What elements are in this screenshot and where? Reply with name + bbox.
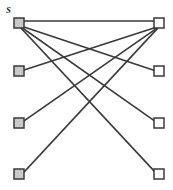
edge-layer [19,21,159,173]
right-node-4 [154,169,164,179]
right-node-3 [154,118,164,128]
edge-L3-R1 [24,28,157,121]
edge-L4-R1 [24,29,157,172]
left-node-4 [14,169,24,179]
left-node-3 [14,118,24,128]
node-layer [14,18,164,179]
left-node-2 [14,66,24,76]
edge-L1-R3 [21,27,156,122]
right-node-2 [154,66,164,76]
graph-figure: S [0,0,173,190]
left-node-1 [14,18,24,28]
graph-canvas [0,0,173,190]
right-node-1 [154,18,164,28]
